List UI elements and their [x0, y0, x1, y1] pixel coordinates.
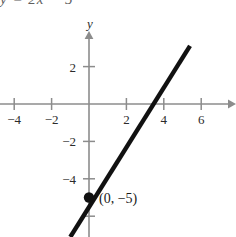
- x-tick-label-neg2: −2: [45, 112, 59, 127]
- y-axis-arrow-icon: [85, 31, 94, 39]
- x-tick-label-neg4: −4: [7, 112, 21, 127]
- y-tick-label-neg2: −2: [62, 134, 76, 149]
- y-tick-label-2: 2: [70, 60, 77, 75]
- y-tick-label-neg4: −4: [62, 172, 76, 187]
- x-tick-label-4: 4: [161, 112, 168, 127]
- x-axis-arrow-icon: [228, 100, 236, 109]
- graph-figure: y = 2x − 5 −4 −2 2: [0, 0, 236, 237]
- x-tick-label-2: 2: [123, 112, 130, 127]
- coordinate-plane: −4 −2 2 4 6 2 −2 −4 y (0, −5): [0, 0, 236, 237]
- x-tick-label-6: 6: [198, 112, 205, 127]
- point-marker-0-neg5: [84, 192, 94, 202]
- point-annotation-label: (0, −5): [99, 191, 138, 207]
- y-axis-label: y: [85, 16, 93, 31]
